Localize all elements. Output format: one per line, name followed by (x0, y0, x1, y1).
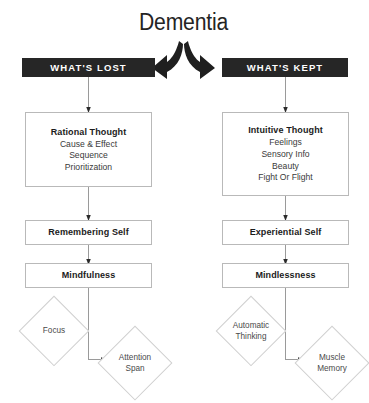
box-rational-thought-heading: Rational Thought (51, 126, 127, 139)
curved-arrow-right-icon (184, 41, 215, 79)
diamond-focus-label: Focus (20, 326, 88, 337)
box-intuitive-thought-line-2: Sensory Info (261, 149, 309, 161)
box-mindlessness: Mindlessness (222, 263, 349, 288)
box-intuitive-thought-line-1: Feelings (269, 137, 301, 149)
box-intuitive-thought-line-4: Fight Or Flight (258, 172, 312, 184)
diamond-muscle-memory: MuscleMemory (296, 327, 368, 399)
box-mindlessness-label: Mindlessness (255, 269, 315, 282)
diamond-automatic-thinking-label: AutomaticThinking (217, 321, 285, 342)
box-experiential-self-label: Experiential Self (250, 226, 322, 239)
box-intuitive-thought: Intuitive Thought Feelings Sensory Info … (222, 112, 349, 196)
diamond-automatic-thinking: AutomaticThinking (217, 297, 285, 365)
diamond-focus: Focus (20, 297, 88, 365)
box-mindfulness: Mindfulness (25, 263, 152, 288)
banner-whats-lost: WHAT'S LOST (22, 58, 155, 77)
box-rational-thought-line-2: Sequence (69, 150, 108, 162)
box-rational-thought-line-1: Cause & Effect (60, 139, 117, 151)
box-rational-thought: Rational Thought Cause & Effect Sequence… (25, 112, 152, 187)
diamond-attention-span: AttentionSpan (99, 327, 171, 399)
diamond-attention-span-label: AttentionSpan (99, 353, 171, 374)
box-remembering-self-label: Remembering Self (48, 226, 129, 239)
box-remembering-self: Remembering Self (25, 220, 152, 245)
banner-whats-kept: WHAT'S KEPT (222, 58, 348, 77)
box-rational-thought-line-3: Prioritization (65, 162, 112, 174)
box-intuitive-thought-line-3: Beauty (272, 161, 299, 173)
curved-arrow-left-icon (152, 41, 183, 79)
box-experiential-self: Experiential Self (222, 220, 349, 245)
box-intuitive-thought-heading: Intuitive Thought (248, 124, 323, 137)
box-mindfulness-label: Mindfulness (62, 269, 116, 282)
page-title: Dementia (15, 9, 353, 36)
diamond-muscle-memory-label: MuscleMemory (296, 353, 368, 374)
